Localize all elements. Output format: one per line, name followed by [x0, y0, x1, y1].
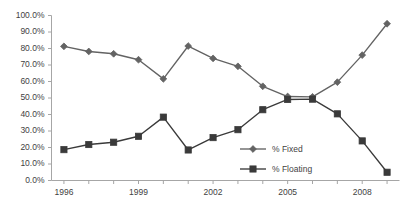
- data-point-marker: [111, 139, 117, 145]
- chart-plot-area: [0, 0, 407, 211]
- data-point-marker: [285, 96, 291, 102]
- y-axis-tick-label: 30.0%: [0, 126, 45, 135]
- y-axis-tick-label: 90.0%: [0, 27, 45, 36]
- y-axis-tick-label: 50.0%: [0, 93, 45, 102]
- series-fixed: [61, 20, 391, 100]
- legend-marker-icon: [250, 146, 257, 153]
- y-axis-tick-label: 70.0%: [0, 60, 45, 69]
- data-point-marker: [384, 169, 390, 175]
- legend-item-label: % Floating: [272, 164, 312, 174]
- data-point-marker: [309, 96, 315, 102]
- series-line: [64, 24, 387, 97]
- y-axis-tick-label: 0.0%: [0, 176, 45, 185]
- data-point-marker: [235, 127, 241, 133]
- data-point-marker: [210, 135, 216, 141]
- y-axis-tick-label: 80.0%: [0, 44, 45, 53]
- y-axis-tick-label: 20.0%: [0, 143, 45, 152]
- data-point-marker: [110, 50, 117, 57]
- data-point-marker: [260, 107, 266, 113]
- y-axis-tick-label: 40.0%: [0, 110, 45, 119]
- data-point-marker: [135, 133, 141, 139]
- line-chart: 0.0%10.0%20.0%30.0%40.0%50.0%60.0%70.0%8…: [0, 0, 407, 211]
- data-point-marker: [61, 147, 67, 153]
- data-point-marker: [86, 141, 92, 147]
- x-axis-tick-label: 2005: [263, 187, 313, 197]
- data-point-marker: [61, 43, 68, 50]
- data-point-marker: [160, 114, 166, 120]
- series-floating: [61, 96, 390, 175]
- y-axis-tick-label: 60.0%: [0, 77, 45, 86]
- x-axis-tick-label: 1999: [114, 187, 164, 197]
- series-line: [64, 99, 387, 172]
- data-point-marker: [85, 48, 92, 55]
- x-axis-tick-label: 1996: [39, 187, 89, 197]
- x-axis-tick-label: 2002: [188, 187, 238, 197]
- legend-marker-icon: [250, 166, 256, 172]
- data-point-marker: [359, 138, 365, 144]
- data-point-marker: [185, 147, 191, 153]
- data-point-marker: [334, 111, 340, 117]
- y-axis-tick-label: 100.0%: [0, 11, 45, 20]
- x-axis-tick-label: 2008: [337, 187, 387, 197]
- legend-item-label: % Fixed: [272, 144, 303, 154]
- y-axis-tick-label: 10.0%: [0, 159, 45, 168]
- data-point-marker: [210, 55, 217, 62]
